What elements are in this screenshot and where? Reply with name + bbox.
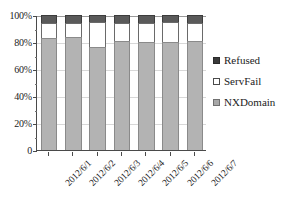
bar-group (89, 16, 106, 150)
bar-segment-refused (187, 15, 204, 23)
y-axis-tick-90 (35, 30, 37, 31)
legend-item-servfail: ServFail (213, 71, 285, 92)
y-axis-tick-100 (33, 16, 37, 17)
y-axis-tick-10 (35, 138, 37, 139)
x-axis-tick (194, 152, 195, 156)
bar-segment-nxdomain (187, 41, 204, 150)
x-axis-tick (72, 152, 73, 156)
plot-area (36, 16, 206, 151)
x-axis-tick (145, 152, 146, 156)
bar-segment-servfail (187, 23, 204, 41)
legend-item-refused: Refused (213, 50, 285, 71)
x-axis-label-7: 2012/6/7 (209, 158, 239, 188)
bar-segment-nxdomain (162, 42, 179, 150)
bar-segment-nxdomain (114, 41, 131, 150)
bar-segment-nxdomain (89, 47, 106, 150)
bar-segment-nxdomain (41, 38, 58, 150)
bar-group (41, 16, 58, 150)
y-axis-tick-50 (35, 84, 37, 85)
x-axis-tick (48, 152, 49, 156)
bar-group (187, 16, 204, 150)
bar-segment-refused (89, 15, 106, 22)
bar-segment-nxdomain (65, 37, 82, 150)
bar-group (114, 16, 131, 150)
y-axis-label-80: 80% (0, 38, 32, 48)
x-axis-label-2: 2012/6/2 (88, 158, 118, 188)
y-axis-label-0: 0 (0, 146, 32, 156)
legend-label-nxdomain: NXDomain (224, 97, 275, 108)
bar-segment-servfail (65, 23, 82, 37)
bar-segment-nxdomain (138, 42, 155, 150)
bar-segment-refused (162, 15, 179, 22)
bar-segment-refused (65, 15, 82, 23)
y-axis-tick-70 (35, 57, 37, 58)
y-axis-label-100: 100% (0, 11, 32, 21)
x-axis-label-3: 2012/6/3 (112, 158, 142, 188)
y-axis-tick-20 (33, 124, 37, 125)
x-axis-label-5: 2012/6/5 (161, 158, 191, 188)
bar-group (65, 16, 82, 150)
x-axis-tick (121, 152, 122, 156)
bar-segment-servfail (89, 22, 106, 48)
bar-segment-servfail (162, 22, 179, 42)
y-axis-label-40: 40% (0, 92, 32, 102)
y-axis-label-60: 60% (0, 65, 32, 75)
nxdomain-swatch-icon (213, 99, 220, 106)
bar-segment-servfail (138, 23, 155, 42)
chart-legend: Refused ServFail NXDomain (213, 50, 285, 113)
x-axis-label-1: 2012/6/1 (64, 158, 94, 188)
x-axis-tick (97, 152, 98, 156)
legend-label-refused: Refused (224, 55, 260, 66)
bar-segment-refused (114, 15, 131, 23)
x-axis-label-6: 2012/6/6 (185, 158, 215, 188)
x-axis-labels: 2012/6/12012/6/22012/6/32012/6/42012/6/5… (36, 152, 206, 198)
bar-segment-refused (138, 15, 155, 23)
legend-item-nxdomain: NXDomain (213, 92, 285, 113)
bar-segment-servfail (114, 23, 131, 41)
bar-segment-refused (41, 15, 58, 23)
bar-segment-servfail (41, 23, 58, 38)
servfail-swatch-icon (213, 78, 220, 85)
stacked-bar-chart: 100% 80% 60% 40% 20% 0 2012/6/12012/6/22… (0, 0, 285, 198)
x-axis-label-4: 2012/6/4 (136, 158, 166, 188)
y-axis-tick-80 (33, 43, 37, 44)
bar-group (162, 16, 179, 150)
y-axis-label-20: 20% (0, 119, 32, 129)
refused-swatch-icon (213, 57, 220, 64)
y-axis-tick-40 (33, 97, 37, 98)
y-axis-tick-30 (35, 111, 37, 112)
y-axis-tick-60 (33, 70, 37, 71)
legend-label-servfail: ServFail (224, 76, 261, 87)
x-axis-tick (170, 152, 171, 156)
bar-group (138, 16, 155, 150)
